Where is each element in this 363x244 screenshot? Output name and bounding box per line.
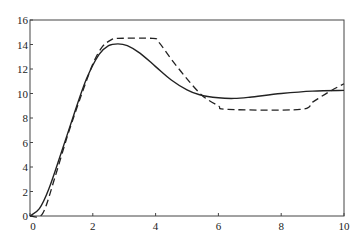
y-axis-tick-labels: 0246810121416 [17, 14, 29, 222]
plot-frame [30, 20, 344, 216]
y-tick-label: 8 [23, 112, 29, 124]
axis-ticks [30, 20, 344, 216]
y-tick-label: 12 [17, 63, 28, 75]
y-tick-label: 10 [17, 88, 29, 100]
y-tick-label: 4 [23, 161, 29, 173]
series-dashed-line [30, 38, 344, 217]
y-tick-label: 2 [23, 186, 29, 198]
x-tick-label: 4 [153, 220, 159, 232]
y-tick-label: 0 [23, 210, 29, 222]
y-tick-label: 16 [17, 14, 29, 26]
x-tick-label: 8 [278, 220, 284, 232]
y-tick-label: 6 [23, 137, 29, 149]
line-chart: 0246810 0246810121416 [0, 0, 363, 244]
x-tick-label: 0 [30, 220, 36, 232]
y-tick-label: 14 [17, 39, 29, 51]
x-axis-tick-labels: 0246810 [30, 220, 350, 232]
x-tick-label: 6 [216, 220, 222, 232]
x-tick-label: 10 [339, 220, 351, 232]
x-tick-label: 2 [90, 220, 96, 232]
series-solid-line [30, 44, 344, 216]
